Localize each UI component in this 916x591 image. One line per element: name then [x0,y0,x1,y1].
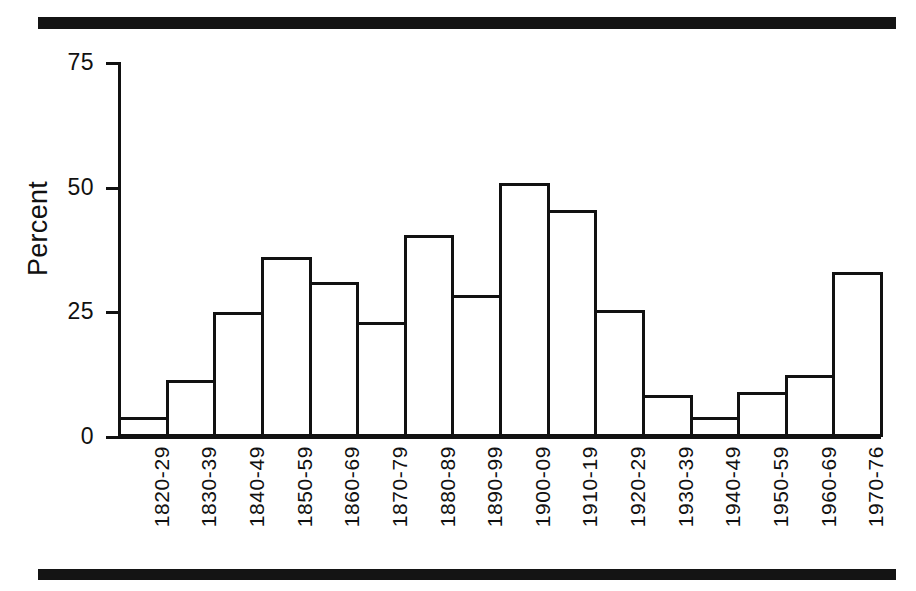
bar [309,282,360,437]
bottom-rule [38,569,896,580]
plot-area [118,63,880,437]
x-axis-tick-label: 1860-69 [341,446,362,556]
x-axis-tick-label: 1970-76 [865,446,886,556]
bar [594,310,645,437]
top-rule [38,17,896,29]
bar [213,312,264,437]
y-axis-tick-label: 75 [22,51,94,74]
bar [642,395,693,437]
bar [404,235,455,437]
x-axis-tick-label: 1960-69 [818,446,839,556]
x-axis-tick-label: 1900-09 [532,446,553,556]
bar [499,183,550,437]
x-axis-tick-label: 1840-49 [246,446,267,556]
x-axis-tick-label: 1850-59 [294,446,315,556]
bar [451,295,502,437]
x-axis-tick-label: 1930-39 [675,446,696,556]
bar [785,375,836,437]
x-axis-tick-label: 1890-99 [484,446,505,556]
y-axis-tick-label: 0 [22,425,94,448]
bar [690,417,741,437]
bar [547,210,598,437]
bar [261,257,312,437]
x-axis-tick-label: 1910-19 [579,446,600,556]
bar [118,417,169,437]
x-axis-tick-label: 1950-59 [770,446,791,556]
x-axis-tick-label: 1880-89 [437,446,458,556]
x-axis-tick-label: 1830-39 [198,446,219,556]
x-axis-tick-label: 1870-79 [389,446,410,556]
bar [737,392,788,437]
figure: 0255075 Percent 1820-291830-391840-49185… [0,0,916,591]
bar [832,272,883,437]
bar [356,322,407,437]
y-axis-title: Percent [25,129,52,329]
bar [166,380,217,437]
x-axis-tick-label: 1940-49 [722,446,743,556]
x-axis-tick-label: 1820-29 [151,446,172,556]
x-axis-tick-label: 1920-29 [627,446,648,556]
